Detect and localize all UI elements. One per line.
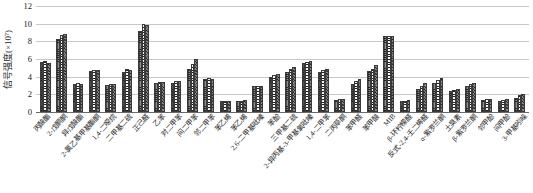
plot-area (36, 6, 529, 112)
bar (211, 79, 215, 112)
y-axis-tick: 0 (28, 108, 32, 117)
y-axis-tick: 12 (24, 2, 33, 11)
bar-group (119, 6, 135, 112)
bar (374, 65, 378, 112)
bar-group (70, 6, 86, 112)
bar (260, 86, 264, 112)
bar-group (413, 6, 429, 112)
bar-group (201, 6, 217, 112)
bar-group (168, 6, 184, 112)
bar (309, 61, 313, 112)
x-axis-tick-labels: 丙酸酯2-戊酮酮异戊酸酯2-氯乙基甲基酯酮1,4-二噁烷二甲基二硫正己醛乙苯对二… (36, 113, 529, 193)
bar-group (397, 6, 413, 112)
bar (145, 25, 149, 112)
bar-group (282, 6, 298, 112)
bar-group (462, 6, 478, 112)
bar (292, 67, 296, 112)
bar (80, 84, 84, 112)
bar (440, 78, 444, 112)
bar (96, 70, 100, 112)
bar (489, 99, 493, 112)
bar-group (315, 6, 331, 112)
bar (423, 83, 427, 112)
bar-group (233, 6, 249, 112)
bar-group (266, 6, 282, 112)
bar (505, 99, 509, 112)
bar-group (446, 6, 462, 112)
x-axis-tick: 苯乙烯 (214, 113, 233, 133)
bar (341, 99, 345, 112)
y-axis-tick: 2 (28, 90, 32, 99)
bar (358, 79, 362, 112)
bar-group (299, 6, 315, 112)
bar (194, 59, 198, 112)
bar-group (152, 6, 168, 112)
bar (47, 63, 51, 112)
bar-group (250, 6, 266, 112)
bar-group (479, 6, 495, 112)
x-axis-tick: 邻甲酚 (477, 113, 496, 133)
bar (456, 89, 460, 112)
bar-group (53, 6, 69, 112)
bar-group (364, 6, 380, 112)
bar (521, 94, 525, 112)
x-axis-tick: 正己醛 (132, 113, 151, 133)
x-axis-tick: 苯甲酸 (362, 113, 381, 133)
bar-group (135, 6, 151, 112)
bar-group (511, 6, 527, 112)
x-axis-tick: 苯甲醛 (345, 113, 364, 133)
bar (325, 69, 329, 112)
bar-group (495, 6, 511, 112)
y-axis-tick-labels: 024681012 (14, 6, 34, 112)
bar (391, 36, 395, 112)
bar (63, 34, 67, 112)
bar-group (430, 6, 446, 112)
bar-group (381, 6, 397, 112)
bar (129, 70, 133, 112)
bar (243, 100, 247, 112)
bar-group (217, 6, 233, 112)
bar (112, 84, 116, 112)
bar (161, 82, 165, 112)
y-axis-tick: 4 (28, 72, 32, 81)
bar (227, 101, 231, 112)
bar-group (37, 6, 53, 112)
bar (178, 81, 182, 112)
bar-group (86, 6, 102, 112)
y-axis-tick: 6 (28, 55, 32, 64)
bar-chart: 信号强度(×10⁷) 024681012 丙酸酯2-戊酮酮异戊酸酯2-氯乙基甲基… (0, 0, 533, 193)
bar-group (102, 6, 118, 112)
bar-group (331, 6, 347, 112)
y-axis-title-text: 信号强度(×10⁷) (2, 29, 15, 88)
bar (472, 83, 476, 112)
bar (276, 74, 280, 112)
y-axis-tick: 8 (28, 37, 32, 46)
y-axis-tick: 10 (24, 19, 33, 28)
bar-groups (36, 6, 529, 112)
bar (407, 100, 411, 112)
bar-group (184, 6, 200, 112)
bar-group (348, 6, 364, 112)
